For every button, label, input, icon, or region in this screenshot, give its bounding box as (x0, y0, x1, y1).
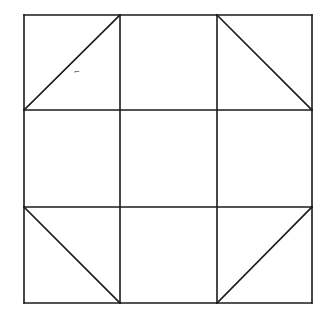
grid-lines (24, 15, 312, 303)
diagonal-top-right (217, 15, 312, 110)
diagonal-top-left (24, 15, 120, 110)
diagonal-bottom-left (24, 207, 120, 303)
diagonal-lines (24, 15, 312, 303)
diagonal-bottom-right (217, 207, 312, 303)
stray-mark: ⌐ (74, 68, 80, 76)
quilt-grid-diagram: ⌐ (0, 0, 328, 318)
